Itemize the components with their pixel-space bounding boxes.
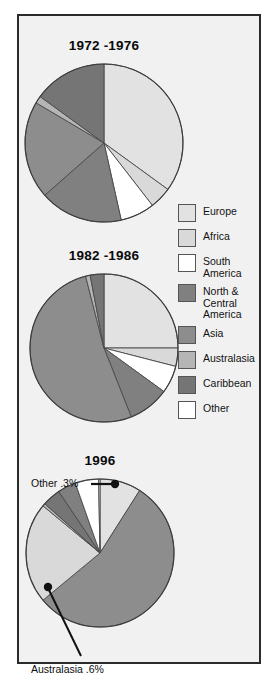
pie-title-1972-1976: 1972 -1976 [19,38,189,53]
pie-title-1982-1986: 1982 -1986 [19,248,189,263]
annotation-australasia-1996: Australasia .6% [31,663,104,675]
legend-label: North & Central America [203,284,242,321]
legend-swatch [178,284,196,302]
legend-swatch [178,204,196,222]
legend-swatch [178,351,196,369]
legend-swatch [178,401,196,419]
legend-swatch [178,326,196,344]
legend-label: Australasia [203,351,255,365]
chart-figure: 1972 -1976 1982 -1986 1996 Other .3% Aus… [17,14,261,664]
legend-label: Asia [203,326,223,340]
legend-item: Asia [178,326,262,346]
pie-slice [104,274,178,348]
legend-label: Europe [203,204,237,218]
legend-swatch [178,376,196,394]
pie-chart-1972-1976: 1972 -1976 [19,38,189,208]
legend-label: South America [203,254,242,279]
legend-item: Caribbean [178,376,262,396]
pie-svg-1982-1986 [19,268,189,428]
legend-item: Other [178,401,262,421]
pie-chart-1982-1986: 1982 -1986 [19,248,189,428]
legend-swatch [178,229,196,247]
legend-item: Europe [178,204,262,224]
annotation-other-1996: Other .3% [31,477,78,489]
pie-svg-1996 [15,473,185,633]
pie-svg-1972-1976 [19,58,189,228]
legend: EuropeAfricaSouth AmericaNorth & Central… [178,204,262,426]
legend-label: Caribbean [203,376,251,390]
legend-item: Australasia [178,351,262,371]
legend-item: North & Central America [178,284,262,321]
pie-title-1996: 1996 [15,453,185,468]
legend-swatch [178,254,196,272]
legend-label: Africa [203,229,230,243]
legend-item: South America [178,254,262,279]
legend-label: Other [203,401,229,415]
legend-item: Africa [178,229,262,249]
